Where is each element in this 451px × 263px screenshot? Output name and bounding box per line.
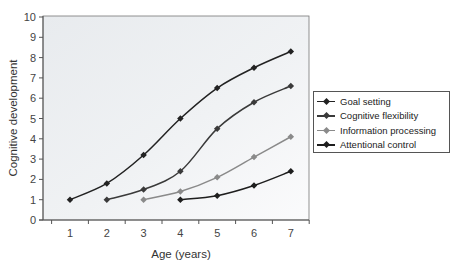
y-tick-label: 8	[30, 52, 36, 64]
legend-line-marker-icon	[317, 126, 335, 134]
x-axis-title: Age (years)	[151, 248, 211, 260]
x-tick-label: 5	[214, 227, 220, 239]
legend: Goal settingCognitive flexibilityInforma…	[313, 91, 450, 153]
x-tick-label: 4	[177, 227, 183, 239]
legend-label: Information processing	[340, 125, 436, 136]
x-tick-label: 7	[288, 227, 294, 239]
y-tick-label: 7	[30, 72, 36, 84]
legend-item: Information processing	[317, 123, 449, 138]
y-tick-label: 9	[30, 31, 36, 43]
y-tick-label: 10	[24, 11, 36, 23]
y-tick-label: 1	[30, 194, 36, 206]
x-tick-label: 1	[67, 227, 73, 239]
y-tick-label: 3	[30, 153, 36, 165]
legend-label: Attentional control	[340, 139, 416, 150]
legend-label: Goal setting	[340, 96, 391, 107]
y-tick-label: 4	[30, 133, 36, 145]
y-tick-label: 2	[30, 173, 36, 185]
y-tick-label: 5	[30, 113, 36, 125]
legend-item: Goal setting	[317, 94, 449, 109]
x-tick-label: 3	[141, 227, 147, 239]
plot-area	[43, 16, 309, 220]
legend-line-marker-icon	[317, 141, 335, 149]
legend-label: Cognitive flexibility	[340, 110, 418, 121]
y-axis: 012345678910	[24, 11, 43, 226]
legend-line-marker-icon	[317, 97, 335, 105]
legend-line-marker-icon	[317, 112, 335, 120]
y-tick-label: 6	[30, 92, 36, 104]
x-tick-label: 6	[251, 227, 257, 239]
legend-item: Cognitive flexibility	[317, 109, 449, 124]
legend-item: Attentional control	[317, 138, 449, 153]
x-axis: 1234567	[39, 220, 309, 239]
x-tick-label: 2	[104, 227, 110, 239]
y-axis-title: Cognitive development	[7, 59, 19, 177]
y-tick-label: 0	[30, 214, 36, 226]
